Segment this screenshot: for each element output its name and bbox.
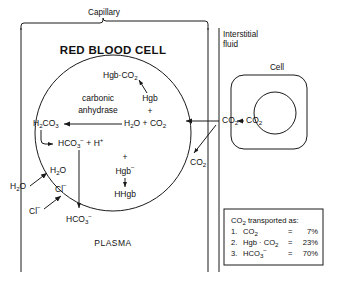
legend-row-2-species: Hgb · CO2 [243,238,279,248]
capillary-bracket [21,18,208,30]
capillary-label: Capillary [88,8,121,17]
hco3-plus-h-label: HCO3− + H+ [58,136,104,149]
red-blood-cell-title: RED BLOOD CELL [60,44,166,56]
chloride-plasma-label: Cl− [29,204,41,217]
arrow-h2co3-to-hco3 [41,130,53,144]
legend-row-3-value: 70% [303,249,318,258]
legend-row: 1. CO2 = 7% [231,227,318,237]
hco3-plasma-label: HCO3− [66,213,92,225]
co2-transport-diagram: Capillary Interstitial fluid RED BLOOD C… [0,0,337,285]
legend-row-2-value: 23% [303,238,318,247]
plasma-label: PLASMA [94,238,132,248]
arrow-hgb-to-hgbco2 [139,80,147,93]
hgb-co2-label: Hgb·CO2 [103,70,138,80]
tissue-cell-nucleus [254,92,296,134]
chloride-inside-label: Cl− [55,182,67,195]
diagram-canvas: Capillary Interstitial fluid RED BLOOD C… [0,0,337,285]
enzyme-label-line1: carbonic [82,93,115,103]
arrow-h2o-into-rbc [30,173,47,186]
hgb-plus-sign: + [148,106,153,116]
interstitial-fluid-label-2: fluid [223,40,238,49]
legend-row-3-eq: = [288,249,293,258]
legend-row-1-value: 7% [307,227,318,236]
legend-row: 2. Hgb · CO2 = 23% [231,238,318,248]
buffer-plus-sign: + [123,152,128,162]
co2-interstitial-label: CO2 [222,115,239,125]
h2co3-label: H2CO3 [33,118,59,128]
legend-row-3-num: 3. [231,249,237,258]
legend-row-1-num: 1. [231,227,237,236]
tissue-cell [231,75,307,149]
legend-row-1-species: CO2 [243,227,258,237]
co2-plasma-label: CO2 [190,157,207,167]
enzyme-label-line2: anhydrase [78,105,118,115]
h2o-plasma-label: H2O [10,181,27,191]
hgb-label: Hgb [142,93,158,103]
cell-label: Cell [270,63,284,72]
co2-cell-label: CO2 [246,115,263,125]
legend-row-1-eq: = [288,227,293,236]
h2o-inside-label: H2O [50,165,67,175]
hhgb-label: HHgb [114,189,136,199]
hgb-minus-label: Hgb− [115,164,135,177]
arrow-chloride-shift [44,196,61,209]
legend-row-2-eq: = [288,238,293,247]
legend-row-3-species: HCO3− [243,247,267,259]
arrow-co2-to-plasma [194,125,216,153]
legend-box: CO2 transported as: 1. CO2 = 7% 2. Hgb ·… [224,209,323,265]
legend-row-2-num: 2. [231,238,237,247]
interstitial-fluid-label: Interstitial [223,30,258,39]
legend-title: CO2 transported as: [231,216,299,226]
legend-row: 3. HCO3− = 70% [231,247,318,259]
water-plus-co2-label: H2O + CO2 [124,118,167,128]
